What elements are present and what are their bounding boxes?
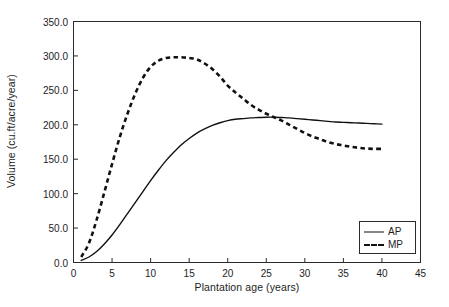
chart-figure: Volume (cu.ft/acre/year) Plantation age … <box>0 0 449 307</box>
legend-swatch-solid-icon <box>364 227 384 237</box>
legend-label-mp: MP <box>388 240 403 250</box>
chart-legend: AP MP <box>359 221 416 254</box>
legend-entry-mp: MP <box>364 238 411 251</box>
legend-entry-ap: AP <box>364 225 411 238</box>
legend-label-ap: AP <box>388 227 401 237</box>
plot-area <box>0 0 449 307</box>
legend-swatch-dashed-icon <box>364 240 384 250</box>
